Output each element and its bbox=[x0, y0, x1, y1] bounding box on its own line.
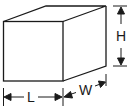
arrow-left-icon bbox=[4, 94, 11, 101]
box-right-face bbox=[63, 6, 106, 81]
length-label: L bbox=[27, 89, 35, 105]
box-dimension-diagram: H L W bbox=[0, 0, 131, 111]
arrow-up-icon bbox=[118, 7, 125, 14]
box-front-face bbox=[4, 22, 64, 82]
arrow-down-icon bbox=[118, 58, 125, 65]
height-label: H bbox=[116, 28, 126, 44]
arrow-right-icon bbox=[55, 94, 62, 101]
box-top-face bbox=[4, 6, 107, 22]
width-label: W bbox=[79, 82, 93, 98]
arrow-down-left-icon bbox=[64, 92, 73, 99]
arrow-up-right-icon bbox=[99, 81, 106, 88]
box-outline bbox=[4, 6, 107, 81]
